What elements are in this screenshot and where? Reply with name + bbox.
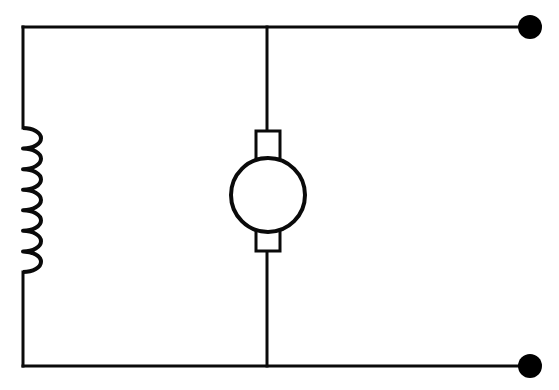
inductor-coil-path [23, 128, 41, 272]
motor-circle [231, 158, 305, 232]
terminal-dot-bottom[interactable] [518, 354, 542, 378]
circuit-schematic [0, 0, 559, 390]
inductor-symbol [23, 128, 41, 272]
circuit-diagram-canvas [0, 0, 559, 390]
terminal-dot-top[interactable] [518, 15, 542, 39]
motor-symbol [231, 131, 305, 251]
motor-brush-top [256, 131, 280, 159]
terminal-group [518, 15, 542, 378]
